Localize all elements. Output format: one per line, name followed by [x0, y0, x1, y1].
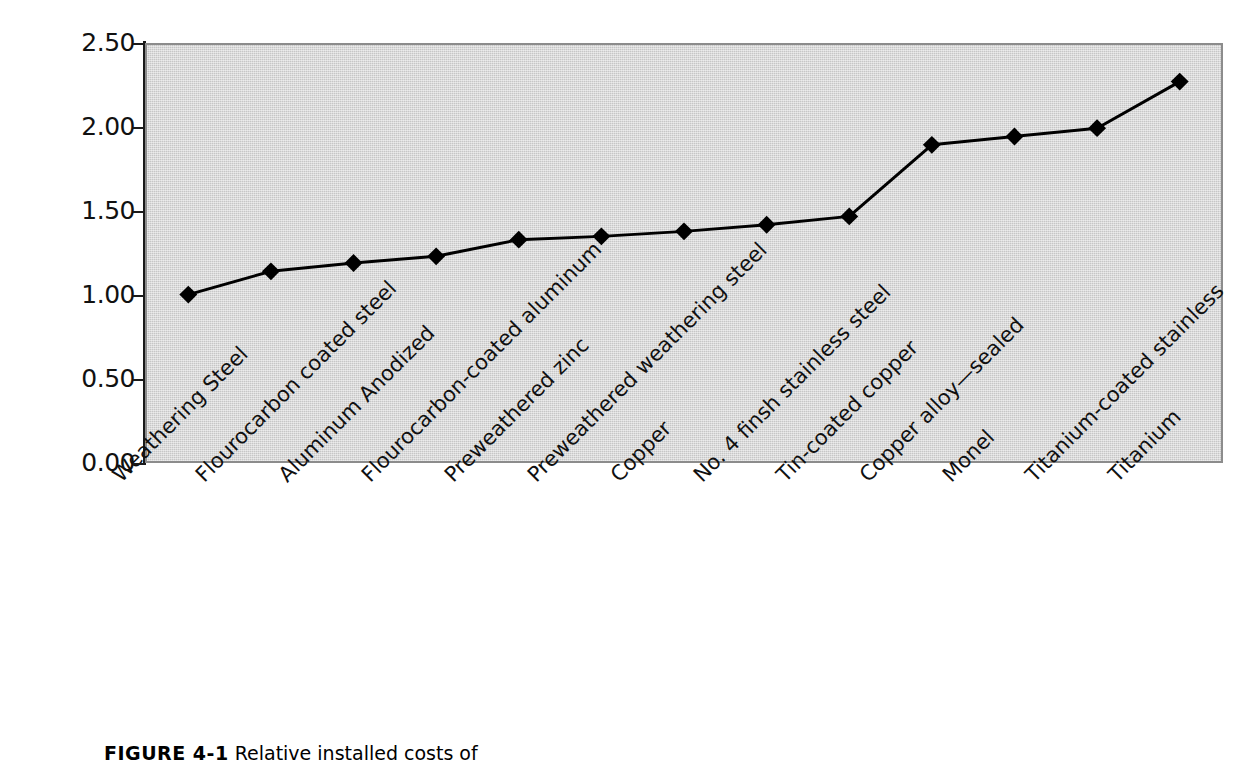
- figure-relative-installed-costs: 2.502.001.501.000.500.00 Weathering Stee…: [0, 0, 1254, 765]
- y-tick-label: 0.50: [35, 366, 135, 391]
- figure-caption-text: Relative installed costs of: [235, 742, 478, 764]
- series-markers: [179, 73, 1188, 304]
- data-point-marker: [262, 262, 280, 280]
- data-point-marker: [510, 231, 528, 249]
- y-tick-label: 1.00: [35, 282, 135, 307]
- plot-area: [145, 43, 1223, 463]
- data-point-marker: [1005, 128, 1023, 146]
- data-point-marker: [675, 222, 693, 240]
- y-tick-mark: [133, 211, 144, 213]
- data-point-marker: [758, 216, 776, 234]
- x-axis-category-labels: Weathering SteelFlourocarbon coated stee…: [0, 465, 1254, 695]
- figure-caption: FIGURE 4-1 Relative installed costs of: [104, 742, 1204, 764]
- y-tick-mark: [133, 463, 144, 465]
- data-point-marker: [345, 254, 363, 272]
- y-tick-label: 2.00: [35, 114, 135, 139]
- data-point-marker: [1088, 119, 1106, 137]
- series-line: [188, 82, 1179, 295]
- y-tick-label: 1.50: [35, 198, 135, 223]
- y-tick-mark: [133, 127, 144, 129]
- data-point-marker: [179, 286, 197, 304]
- y-tick-mark: [133, 295, 144, 297]
- data-point-marker: [1171, 73, 1189, 91]
- figure-caption-label: FIGURE 4-1: [104, 742, 229, 764]
- y-tick-mark: [133, 379, 144, 381]
- line-chart-svg: [147, 45, 1221, 461]
- y-tick-mark: [133, 43, 144, 45]
- y-tick-label: 2.50: [35, 30, 135, 55]
- data-point-marker: [427, 247, 445, 265]
